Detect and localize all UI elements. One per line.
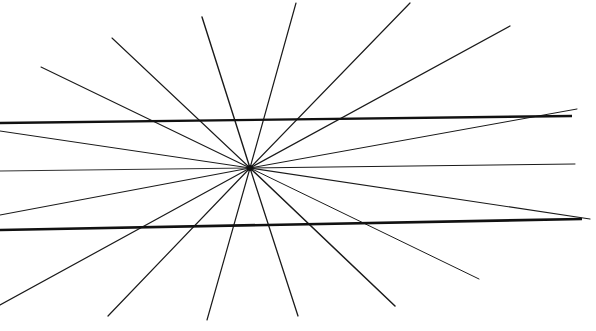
lower-horizontal-line (0, 219, 582, 230)
ray-line-16 (0, 168, 250, 171)
radiating-lines (0, 3, 590, 320)
ray-line-8 (250, 168, 590, 219)
horizontal-lines (0, 116, 582, 230)
ray-line-3 (250, 3, 296, 168)
ray-line-7 (250, 164, 575, 168)
figure-canvas (0, 0, 596, 331)
ray-line-5 (250, 26, 510, 168)
upper-horizontal-line (0, 116, 572, 123)
center-point (247, 165, 253, 171)
ray-line-14 (0, 168, 250, 305)
